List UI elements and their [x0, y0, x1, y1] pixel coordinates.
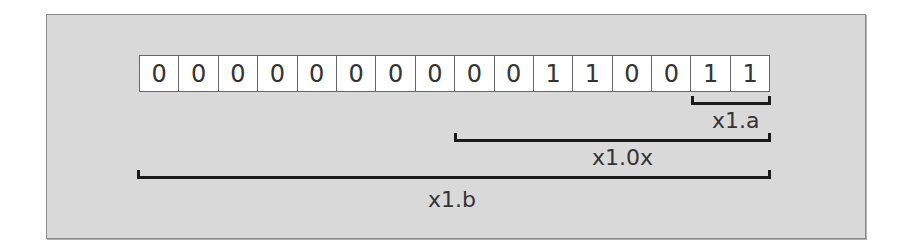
bit-cell: 0 [455, 56, 494, 91]
bit-cell: 0 [258, 56, 297, 91]
label-x1-b: x1.b [428, 189, 476, 211]
bit-cell: 0 [140, 56, 179, 91]
bit-cell: 0 [298, 56, 337, 91]
bit-cell: 1 [573, 56, 612, 91]
bit-cell: 1 [691, 56, 730, 91]
bit-cell: 0 [376, 56, 415, 91]
bit-field: 0 0 0 0 0 0 0 0 0 0 1 1 0 0 1 1 [139, 55, 770, 92]
bracket-x1-a [691, 96, 771, 105]
bit-cell: 0 [337, 56, 376, 91]
bit-cell: 0 [179, 56, 218, 91]
bit-cell: 0 [613, 56, 652, 91]
bit-cell: 0 [219, 56, 258, 91]
bit-cell: 0 [416, 56, 455, 91]
bit-cell: 0 [495, 56, 534, 91]
bracket-x1-0x [454, 133, 771, 142]
label-x1-0x: x1.0x [592, 147, 653, 169]
label-x1-a: x1.a [712, 110, 760, 132]
bit-cell: 1 [731, 56, 769, 91]
bracket-x1-b [137, 170, 771, 179]
bit-cell: 0 [652, 56, 691, 91]
bit-cell: 1 [534, 56, 573, 91]
